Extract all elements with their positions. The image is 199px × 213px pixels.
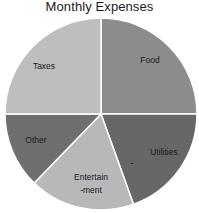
label-utilities: Utilities	[150, 147, 177, 157]
label-food: Food	[140, 55, 160, 65]
label-entertainment-line2: -ment	[80, 185, 102, 195]
pie-chart: Food Taxes Other Utilities - Entertain -…	[0, 0, 199, 213]
label-other: Other	[25, 135, 46, 145]
label-taxes: Taxes	[33, 61, 55, 71]
label-entertainment-line1: Entertain	[74, 172, 108, 182]
slice-food	[101, 18, 197, 114]
label-utilities-mark: -	[131, 158, 134, 168]
